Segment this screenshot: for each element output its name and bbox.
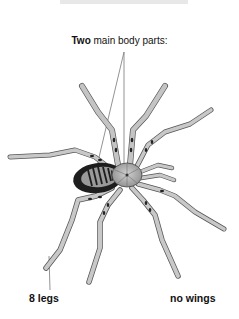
leg-right-short-1 <box>140 165 172 172</box>
legs-label: 8 legs <box>29 292 59 304</box>
leg-rear-right <box>132 188 178 276</box>
wings-label: no wings <box>170 292 216 304</box>
spider-illustration <box>0 0 239 319</box>
spider-cephalothorax <box>112 163 142 187</box>
leg-rear-middle <box>89 190 120 282</box>
leg-right-front <box>130 86 165 165</box>
leg-right-short-2 <box>141 175 174 180</box>
